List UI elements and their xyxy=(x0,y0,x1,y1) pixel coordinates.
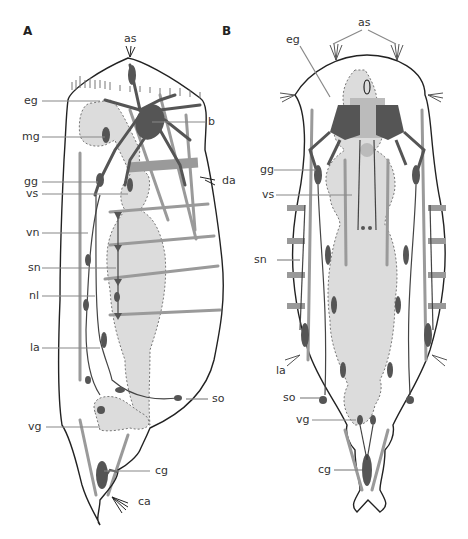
organ-region-a xyxy=(79,100,165,425)
label-b-gg: gg xyxy=(260,164,274,175)
panel-label-a: A xyxy=(23,24,32,38)
label-b-as: as xyxy=(358,17,370,28)
diagram-canvas xyxy=(0,0,468,539)
panel-a-drawing xyxy=(59,46,224,525)
label-a-la: la xyxy=(30,342,40,353)
label-a-gg: gg xyxy=(24,176,38,187)
label-a-vs: vs xyxy=(26,188,38,199)
panel-label-b: B xyxy=(222,24,231,38)
label-a-ca: ca xyxy=(138,496,151,507)
label-b-so: so xyxy=(283,392,295,403)
label-a-sn: sn xyxy=(28,262,41,273)
label-a-b: b xyxy=(208,116,215,127)
label-b-vg: vg xyxy=(296,414,310,425)
label-b-sn: sn xyxy=(254,254,267,265)
label-a-vg: vg xyxy=(28,421,42,432)
label-b-cg: cg xyxy=(318,464,331,475)
label-a-eg: eg xyxy=(24,95,38,106)
panel-b-drawing xyxy=(280,44,447,512)
label-a-as: as xyxy=(124,33,136,44)
label-b-la: la xyxy=(276,365,286,376)
label-b-eg: eg xyxy=(286,34,300,45)
label-a-nl: nl xyxy=(29,290,39,301)
label-a-cg: cg xyxy=(155,465,168,476)
label-b-vs: vs xyxy=(262,189,274,200)
label-a-vn: vn xyxy=(26,227,39,238)
label-a-so: so xyxy=(212,393,224,404)
label-a-da: da xyxy=(222,175,236,186)
label-a-mg: mg xyxy=(22,131,40,142)
